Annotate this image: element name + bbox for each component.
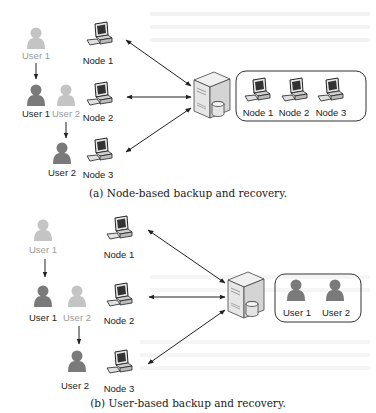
computer-icon <box>107 350 132 373</box>
stored-user-2-label: User 2 <box>322 307 350 318</box>
user-2-active-label: User 2 <box>61 380 89 391</box>
user-2-faded-label: User 2 <box>63 312 91 323</box>
user-1-active-label: User 1 <box>29 312 57 323</box>
computer-icon <box>107 283 132 306</box>
node-1-label: Node 1 <box>104 249 135 260</box>
figure-canvas: User 1 User 1 User 2 User 2 Node 1 Node … <box>0 0 376 413</box>
server-icon <box>194 72 230 118</box>
stored-node-1-label: Node 1 <box>243 107 274 118</box>
user-1-faded-icon <box>34 220 52 242</box>
computer-icon <box>87 82 112 105</box>
node-1-label: Node 1 <box>83 55 114 66</box>
user-1-faded-label: User 1 <box>22 50 50 61</box>
computer-icon <box>87 138 112 161</box>
user-1-faded-icon <box>27 28 45 50</box>
node-2-label: Node 2 <box>83 112 114 123</box>
user-2-active-icon <box>68 351 86 373</box>
sync-arrow-node-3 <box>126 108 191 152</box>
node-3-label: Node 3 <box>104 383 135 394</box>
caption-a: (a) Node-based backup and recovery. <box>89 187 287 199</box>
user-2-faded-icon <box>57 85 75 107</box>
stored-node-3-label: Node 3 <box>316 107 347 118</box>
computer-icon <box>318 78 343 101</box>
node-2-label: Node 2 <box>104 315 135 326</box>
user-1-active-label: User 1 <box>22 108 50 119</box>
server-icon <box>228 272 264 318</box>
figure-a: User 1 User 1 User 2 User 2 Node 1 Node … <box>22 22 366 199</box>
computer-icon <box>245 78 270 101</box>
computer-icon <box>87 22 112 45</box>
stored-user-1-label: User 1 <box>283 307 311 318</box>
node-3-label: Node 3 <box>83 169 114 180</box>
user-2-active-icon <box>53 143 71 165</box>
caption-b: (b) User-based backup and recovery. <box>90 397 286 409</box>
user-1-faded-label: User 1 <box>29 244 57 255</box>
user-1-active-icon <box>27 85 45 107</box>
stored-node-2-label: Node 2 <box>279 107 310 118</box>
sync-arrow-node-1 <box>126 40 191 86</box>
user-2-faded-label: User 2 <box>52 108 80 119</box>
computer-icon <box>282 78 307 101</box>
user-2-faded-icon <box>68 286 86 308</box>
computer-icon <box>107 216 132 239</box>
user-2-active-label: User 2 <box>48 167 76 178</box>
figure-b: User 1 User 1 User 2 User 2 Node 1 Node … <box>29 216 361 409</box>
user-1-active-icon <box>34 286 52 308</box>
